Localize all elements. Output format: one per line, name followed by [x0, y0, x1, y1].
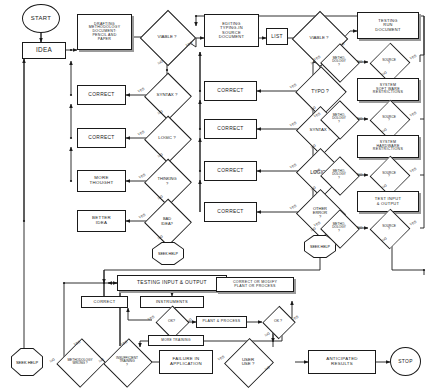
node-viable-1-label: VIABLE ? — [148, 18, 186, 56]
node-ok-2: OK ? — [262, 311, 294, 332]
node-correct-mid-1: CORRECT — [204, 81, 257, 101]
node-methodology-1-label: METHO- DOLOGY ? — [322, 49, 356, 75]
node-correct-mid-4-label: CORRECT — [217, 209, 243, 214]
node-typo: TYPO ? — [300, 74, 340, 108]
node-system-hardware-restrictions: SYSTEM HARDWARE RESTRICTIONS — [357, 135, 419, 158]
node-failure-in-application: FAILURE IN APPLICATION — [159, 350, 213, 374]
node-correct-bottom-label: CORRECT — [94, 300, 116, 304]
node-source-1-label: SOURCE ? — [368, 49, 410, 75]
node-drafting-label: DRAFTING METHODOLOGY DOCUMENT: PENCIL AN… — [89, 23, 121, 42]
node-methodology-4-label: METHO- DOLOGY ? — [322, 215, 356, 241]
node-more-thought: MORE THOUGHT — [77, 170, 126, 192]
node-list-label: LIST — [271, 34, 283, 39]
node-methodology-wrong: METHODOLOGY WRONG ? — [60, 344, 100, 380]
node-logic-left: LOGIC ? — [148, 123, 186, 154]
node-methodology-4: METHO- DOLOGY ? — [322, 215, 356, 241]
node-source-4: SOURCE ? — [368, 215, 410, 241]
node-user-use-label: USER USE ? — [228, 344, 268, 380]
node-system-software-restrictions-label: SYSTEM SOFT WARE RESTRICTIONS — [373, 84, 403, 95]
node-start: START — [22, 4, 60, 33]
node-seek-help-bottom-label: SEEK HELP — [16, 360, 38, 365]
node-correct-mid-3-label: CORRECT — [217, 168, 243, 173]
edge-label-meth2-no: NO — [357, 117, 363, 121]
flowchart-canvas: START IDEA DRAFTING METHODOLOGY DOCUMENT… — [0, 0, 430, 388]
node-logic-left-label: LOGIC ? — [148, 123, 186, 154]
node-source-1: SOURCE ? — [368, 49, 410, 75]
node-testing-run-document: TESTING RUN DOCUMENT — [357, 12, 419, 39]
octagon-inner: SEEK HELP — [153, 243, 183, 264]
node-anticipated-results: ANTICIPATED RESULTS — [308, 350, 376, 374]
node-correct-mid-3: CORRECT — [204, 161, 257, 181]
node-correct-bottom: CORRECT — [81, 296, 128, 308]
node-editing: EDITING TYPING-IN SOURCE DOCUMENT — [204, 14, 259, 47]
node-methodology-3-label: METHO- DOLOGY ? — [322, 162, 356, 188]
node-correct-left-2: CORRECT — [77, 128, 126, 148]
node-more-thought-label: MORE THOUGHT — [90, 176, 114, 185]
node-ok-1: OK? — [155, 311, 188, 332]
node-methodology-1: METHO- DOLOGY ? — [322, 49, 356, 75]
node-testing-input-output-label: TESTING INPUT & OUTPUT — [137, 280, 207, 285]
node-correct-or-modify: CORRECT OR MODIFY PLANT OR PROCESS — [216, 277, 294, 292]
node-testing-input-output: TESTING INPUT & OUTPUT — [117, 275, 227, 291]
node-test-input-output: TEST INPUT & OUTPUT — [357, 191, 419, 212]
node-correct-mid-2: CORRECT — [204, 119, 257, 139]
node-stop: STOP — [390, 347, 421, 376]
node-source-3: SOURCE ? — [368, 162, 410, 188]
node-test-input-output-label: TEST INPUT & OUTPUT — [375, 197, 401, 205]
node-stop-label: STOP — [398, 359, 412, 364]
edge-label-meth1-no: NO — [357, 60, 363, 64]
node-idea: IDEA — [22, 42, 66, 59]
node-source-2-label: SOURCE ? — [368, 106, 410, 132]
node-methodology-2-label: METHO- DOLOGY ? — [322, 106, 356, 132]
node-system-software-restrictions: SYSTEM SOFT WARE RESTRICTIONS — [357, 78, 419, 101]
node-more-training-label: MORE TRAINING — [161, 339, 191, 342]
node-idea-label: IDEA — [36, 47, 52, 54]
node-seek-help-bottom: SEEK HELP — [11, 348, 43, 376]
node-failure-in-application-label: FAILURE IN APPLICATION — [170, 357, 202, 366]
node-user-use: USER USE ? — [228, 344, 268, 380]
octagon-inner: SEEK HELP — [12, 349, 42, 375]
node-anticipated-results-label: ANTICIPATED RESULTS — [326, 357, 358, 366]
node-correct-mid-2-label: CORRECT — [217, 126, 243, 131]
node-source-4-label: SOURCE ? — [368, 215, 410, 241]
node-correct-left-1-label: CORRECT — [88, 92, 114, 97]
node-source-3-label: SOURCE ? — [368, 162, 410, 188]
node-bad-idea: BAD IDEA? — [148, 206, 186, 237]
node-correct-left-1: CORRECT — [77, 85, 126, 105]
node-editing-label: EDITING TYPING-IN SOURCE DOCUMENT — [219, 22, 245, 39]
node-drafting: DRAFTING METHODOLOGY DOCUMENT: PENCIL AN… — [77, 14, 132, 50]
node-thinking: THINKING ? — [148, 166, 186, 197]
node-better-idea: BETTER IDEA — [77, 210, 126, 232]
node-source-2: SOURCE ? — [368, 106, 410, 132]
node-ok-1-label: OK? — [155, 311, 188, 332]
node-methodology-3: METHO- DOLOGY ? — [322, 162, 356, 188]
node-instruments-label: INSTRUMENTS — [156, 300, 188, 304]
node-plant-process: PLANT & PROCESS — [196, 316, 247, 328]
node-better-idea-label: BETTER IDEA — [92, 216, 111, 225]
node-insufficient-training-label: INSUFFICIENT TRAINING ? — [107, 344, 147, 380]
node-viable-1: VIABLE ? — [148, 18, 186, 56]
node-seek-help-mid-label: SEEK HELP — [310, 245, 330, 249]
node-list: LIST — [266, 28, 288, 45]
node-start-label: START — [31, 15, 51, 21]
node-syntax-left-label: SYNTAX ? — [148, 80, 186, 111]
node-correct-left-2-label: CORRECT — [88, 135, 114, 140]
node-thinking-label: THINKING ? — [148, 166, 186, 197]
node-methodology-2: METHO- DOLOGY ? — [322, 106, 356, 132]
node-correct-mid-4: CORRECT — [204, 202, 257, 222]
node-correct-or-modify-label: CORRECT OR MODIFY PLANT OR PROCESS — [233, 281, 277, 289]
node-typo-label: TYPO ? — [300, 74, 340, 108]
node-syntax-left: SYNTAX ? — [148, 80, 186, 111]
node-insufficient-training: INSUFFICIENT TRAINING ? — [107, 344, 147, 380]
node-methodology-wrong-label: METHODOLOGY WRONG ? — [60, 344, 100, 380]
edge-label-meth3-no: NO — [357, 173, 363, 177]
node-seek-help-left-label: SEEK HELP — [158, 252, 178, 256]
node-system-hardware-restrictions-label: SYSTEM HARDWARE RESTRICTIONS — [373, 141, 403, 152]
node-ok-2-label: OK ? — [262, 311, 294, 332]
node-plant-process-label: PLANT & PROCESS — [203, 320, 241, 324]
edge-label-meth4-no: NO — [357, 226, 363, 230]
node-testing-run-document-label: TESTING RUN DOCUMENT — [375, 19, 401, 32]
node-bad-idea-label: BAD IDEA? — [148, 206, 186, 237]
node-correct-mid-1-label: CORRECT — [217, 88, 243, 93]
node-more-training: MORE TRAINING — [148, 335, 204, 346]
